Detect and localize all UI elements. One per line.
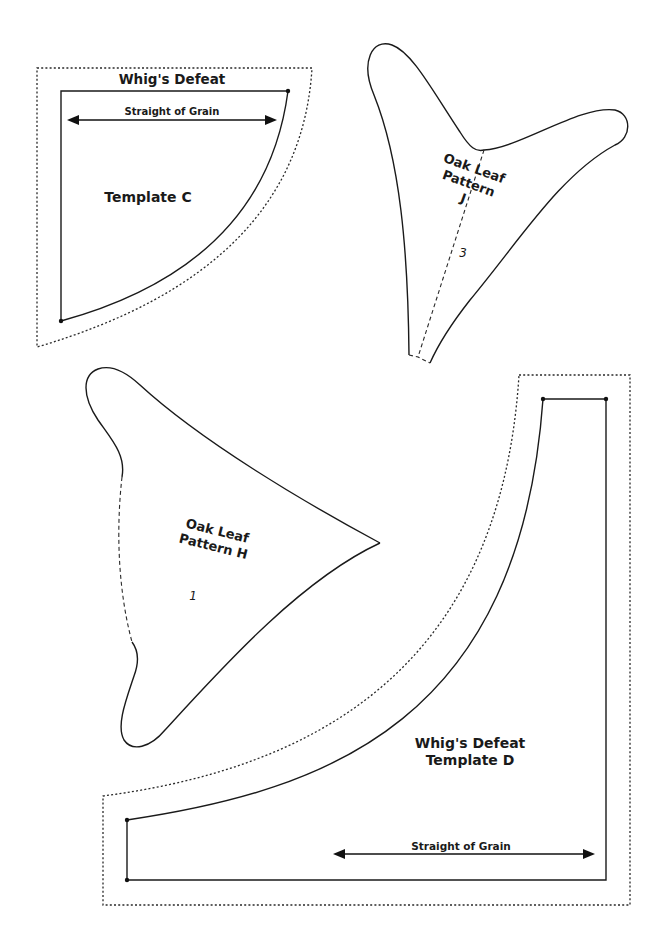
pattern-sheet: Whig's Defeat Straight of Grain Template… (0, 0, 669, 933)
template-c: Whig's Defeat Straight of Grain Template… (37, 68, 312, 347)
template-c-name: Template C (104, 189, 191, 205)
pattern-h-fold-line (119, 477, 132, 642)
template-c-grain-label: Straight of Grain (125, 106, 220, 117)
template-d-seam-allowance (103, 375, 630, 905)
template-d-name: Template D (426, 752, 515, 768)
template-c-corner-dot (286, 89, 290, 93)
template-c-cut-line (61, 91, 288, 321)
pattern-h-piece-number: 1 (189, 589, 197, 603)
pattern-h-outline-top (86, 367, 380, 543)
oak-leaf-pattern-h: Oak Leaf Pattern H 1 (86, 367, 380, 746)
template-d-corner-dot (604, 397, 608, 401)
pattern-j-piece-number: 3 (459, 246, 467, 260)
pattern-j-outline (368, 44, 628, 363)
oak-leaf-pattern-j: Oak Leaf Pattern J 3 (368, 44, 628, 363)
template-d: Whig's Defeat Template D Straight of Gra… (103, 375, 630, 905)
template-d-title: Whig's Defeat (415, 735, 526, 751)
pattern-j-bottom-edge (409, 355, 430, 363)
template-d-cut-line (127, 399, 606, 880)
template-d-corner-dot (125, 878, 129, 882)
template-d-grain-label: Straight of Grain (411, 840, 511, 852)
template-c-corner-dot (59, 319, 63, 323)
template-c-title: Whig's Defeat (119, 71, 226, 87)
template-d-corner-dot (125, 818, 129, 822)
template-d-corner-dot (541, 397, 545, 401)
